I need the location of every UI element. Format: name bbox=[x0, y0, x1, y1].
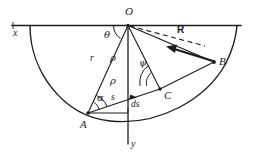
label-x-axis: x bbox=[13, 28, 17, 38]
figure-canvas bbox=[0, 0, 255, 163]
label-point-b: B bbox=[219, 56, 226, 67]
label-angle-theta: θ bbox=[104, 30, 110, 40]
angle-arc-psi-inner bbox=[146, 72, 152, 86]
label-rho-lower: ρ bbox=[110, 76, 116, 86]
label-point-a: A bbox=[80, 119, 87, 130]
label-arc-s: s bbox=[111, 93, 115, 103]
geometry-figure: x O θ R B r ρ ρ ψ α s ds C A y bbox=[0, 0, 255, 163]
label-angle-psi: ψ bbox=[139, 58, 147, 68]
point-marker-b bbox=[212, 60, 216, 64]
label-arc-ds: ds bbox=[131, 100, 139, 110]
angle-arc-theta bbox=[114, 26, 121, 39]
angle-arc-alpha-inner bbox=[94, 102, 100, 110]
vector-r-shaft bbox=[171, 48, 213, 61]
dashed-line-o-to-b bbox=[130, 26, 205, 46]
angle-arc-psi bbox=[140, 66, 149, 87]
point-marker-c bbox=[158, 87, 161, 90]
label-segment-r: r bbox=[90, 54, 94, 64]
label-vector-r: R bbox=[177, 25, 184, 35]
label-rho-upper: ρ bbox=[110, 53, 116, 63]
point-marker-o bbox=[126, 24, 129, 27]
vector-r-arrowhead bbox=[166, 45, 177, 54]
label-point-c: C bbox=[164, 90, 171, 101]
label-origin-o: O bbox=[125, 6, 133, 17]
label-angle-alpha: α bbox=[97, 93, 104, 103]
label-y-axis: y bbox=[131, 139, 135, 149]
point-marker-a bbox=[86, 111, 90, 115]
segment-c-to-b bbox=[160, 62, 214, 89]
